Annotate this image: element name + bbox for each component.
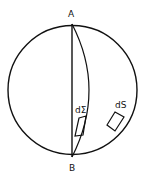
meridian-arc <box>72 24 89 157</box>
surface-element-s <box>107 112 124 131</box>
label-a: A <box>68 9 75 19</box>
label-b: B <box>69 163 75 173</box>
label-d-sigma: dΣ <box>75 105 87 115</box>
label-d-s: dS <box>115 100 127 110</box>
surface-element-sigma <box>75 116 86 136</box>
sphere-diagram: A B dΣ dS <box>0 0 144 181</box>
